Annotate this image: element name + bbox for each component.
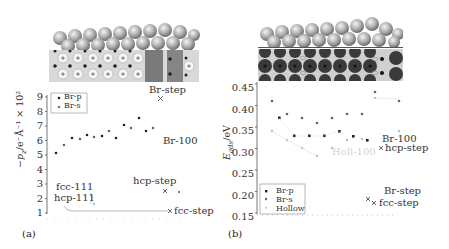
legend-item-br-s: Br-s — [276, 195, 305, 204]
tick: 1 — [33, 206, 43, 221]
label-br-step-b: Br-step — [384, 185, 421, 196]
label-hcp-step-b: hcp-step — [385, 142, 428, 153]
label-br-step-a: Br-step — [149, 84, 186, 95]
panel-a: −pz/e⁻Å⁻¹ × 10² 9 8 7 6 5 4 3 2 1 Br-p B… — [0, 0, 225, 249]
legend-item-hollow: Hollow — [276, 204, 305, 213]
y-ticks-b: 0.45 0.40 0.35 0.30 0.25 0.20 0.15 — [228, 77, 254, 228]
tick: 0.40 — [228, 99, 254, 121]
tick: 0.30 — [228, 142, 254, 164]
plot-b — [225, 0, 449, 249]
label-fcc-111-a: fcc-111 — [56, 181, 93, 192]
label-hcp-111-a: hcp-111 — [54, 192, 95, 203]
tick: 0.25 — [228, 163, 254, 185]
tick: 4 — [33, 163, 43, 178]
tick: 3 — [33, 177, 43, 192]
y-axis-label-a: −pz/e⁻Å⁻¹ × 10² — [14, 91, 28, 168]
label-hcp-step-a: hcp-step — [133, 175, 176, 186]
panel-label-a: (a) — [22, 228, 36, 239]
tick: 0.35 — [228, 120, 254, 142]
tick: 2 — [33, 192, 43, 207]
tick: 0.45 — [228, 77, 254, 99]
label-holl-100-b: Holl-100 — [332, 146, 376, 157]
y-ticks-a: 9 8 7 6 5 4 3 2 1 — [33, 90, 43, 221]
tick: 8 — [33, 105, 43, 120]
legend-item-br-p: Br-p — [64, 92, 82, 101]
legend-b: Br-p Br-s Hollow — [276, 186, 305, 213]
panel-label-b: (b) — [228, 228, 242, 239]
legend-a: Br-p Br-s — [64, 92, 82, 110]
panel-b: Eads/eV 0.45 0.40 0.35 0.30 0.25 0.20 0.… — [225, 0, 449, 249]
label-fcc-step-a: fcc-step — [174, 205, 214, 216]
tick: 5 — [33, 148, 43, 163]
legend-item-br-p: Br-p — [276, 186, 305, 195]
label-br-100-a: Br-100 — [163, 135, 198, 146]
legend-item-br-s: Br-s — [64, 101, 82, 110]
label-fcc-step-b: fcc-step — [379, 197, 419, 208]
tick: 7 — [33, 119, 43, 134]
tick: 9 — [33, 90, 43, 105]
tick: 0.15 — [228, 206, 254, 228]
tick: 0.20 — [228, 185, 254, 207]
tick: 6 — [33, 134, 43, 149]
